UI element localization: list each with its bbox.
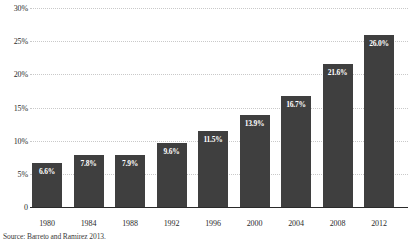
x-axis-tick-label: 1996 [198, 219, 228, 228]
y-axis-tick-label: 5% [18, 169, 28, 178]
bar-chart: 05%10%15%20%25%30% 6.6%19807.8%19847.9%1… [0, 0, 417, 245]
bar-slot: 9.6% [157, 8, 187, 207]
x-axis-tick-label: 1980 [32, 219, 62, 228]
bar-value-label: 7.8% [74, 159, 104, 168]
bar-value-label: 9.6% [157, 147, 187, 156]
y-axis-tick-label: 15% [14, 103, 28, 112]
bar-value-label: 16.7% [281, 100, 311, 109]
bar[interactable]: 16.7% [281, 96, 311, 207]
bar-slot: 26.0% [364, 8, 394, 207]
bar-slot: 21.6% [323, 8, 353, 207]
x-axis-tick-label: 2008 [323, 219, 353, 228]
bar-value-label: 26.0% [364, 39, 394, 48]
bar-slot: 13.9% [240, 8, 270, 207]
y-axis-tick-label: 20% [14, 70, 28, 79]
y-axis-tick-label: 25% [14, 37, 28, 46]
bar-value-label: 11.5% [198, 135, 228, 144]
x-axis-tick-label: 2000 [240, 219, 270, 228]
bar[interactable]: 6.6% [32, 163, 62, 207]
bars-group: 6.6%19807.8%19847.9%19889.6%199211.5%199… [32, 8, 406, 207]
bar[interactable]: 7.9% [115, 155, 145, 207]
bar[interactable]: 11.5% [198, 131, 228, 207]
x-axis-tick-label: 1988 [115, 219, 145, 228]
bar-slot: 7.9% [115, 8, 145, 207]
bar[interactable]: 21.6% [323, 64, 353, 207]
bar-value-label: 6.6% [32, 167, 62, 176]
y-axis-tick-label: 30% [14, 4, 28, 13]
y-axis-tick-label: 0 [24, 203, 28, 212]
x-axis-tick-label: 1992 [157, 219, 187, 228]
x-axis-baseline [30, 207, 408, 208]
bar-value-label: 7.9% [115, 159, 145, 168]
bar-slot: 6.6% [32, 8, 62, 207]
x-axis-tick-label: 2012 [364, 219, 394, 228]
x-axis-tick-label: 2004 [281, 219, 311, 228]
bar[interactable]: 13.9% [240, 115, 270, 207]
bar-value-label: 13.9% [240, 119, 270, 128]
bar-slot: 16.7% [281, 8, 311, 207]
bar-slot: 11.5% [198, 8, 228, 207]
y-axis-tick-label: 10% [14, 136, 28, 145]
bar[interactable]: 7.8% [74, 155, 104, 207]
bar-value-label: 21.6% [323, 68, 353, 77]
source-caption: Source: Barreto and Ramirez 2013. [3, 232, 106, 241]
x-axis-tick-label: 1984 [74, 219, 104, 228]
bar-slot: 7.8% [74, 8, 104, 207]
bar[interactable]: 9.6% [157, 143, 187, 207]
bar[interactable]: 26.0% [364, 35, 394, 207]
